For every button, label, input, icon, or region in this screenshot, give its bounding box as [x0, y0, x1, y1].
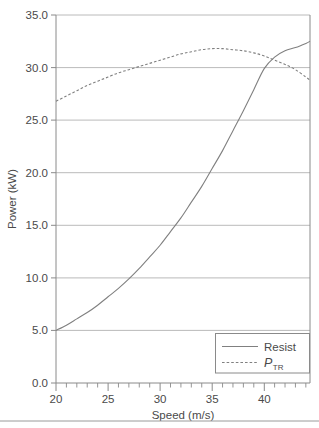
y-tick-label-0: 0.0	[32, 377, 48, 389]
y-tick-label-25: 25.0	[26, 114, 48, 126]
legend[interactable]: Resist PTR	[216, 334, 310, 374]
y-tick-label-35: 35.0	[26, 9, 48, 21]
x-axis-title: Speed (m/s)	[152, 409, 215, 421]
chart-figure: 35.0 30.0 25.0 20.0 15.0 10.0 5.0 0.0 20…	[0, 0, 319, 428]
x-tick-label-35: 35	[206, 393, 219, 405]
x-tick-label-25: 25	[102, 393, 115, 405]
legend-label-ptr-base: P	[264, 356, 273, 370]
legend-label-resist: Resist	[264, 341, 297, 353]
chart-svg: 35.0 30.0 25.0 20.0 15.0 10.0 5.0 0.0 20…	[0, 0, 319, 428]
x-tick-label-40: 40	[258, 393, 271, 405]
legend-box	[216, 334, 310, 374]
x-tick-label-30: 30	[154, 393, 167, 405]
y-tick-label-20: 20.0	[26, 167, 48, 179]
y-tick-label-10: 10.0	[26, 272, 48, 284]
x-tick-label-20: 20	[50, 393, 63, 405]
y-tick-label-15: 15.0	[26, 219, 48, 231]
y-tick-label-5: 5.0	[32, 324, 48, 336]
legend-label-ptr-subscript: TR	[273, 363, 284, 372]
y-axis-title: Power (kW)	[6, 169, 18, 229]
y-tick-label-30: 30.0	[26, 62, 48, 74]
